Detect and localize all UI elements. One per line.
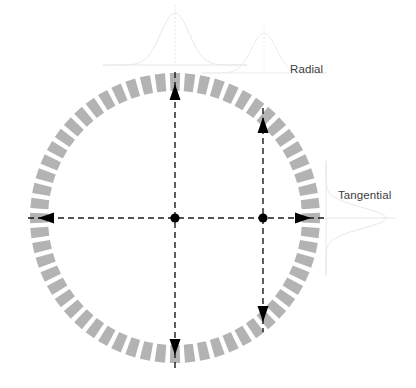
tangential-axis-label: Tangential bbox=[338, 189, 391, 201]
ring-segment bbox=[301, 198, 320, 210]
ring-segment bbox=[294, 253, 314, 268]
ring-segment bbox=[283, 278, 303, 295]
ring-segment bbox=[98, 90, 115, 110]
ring-segment bbox=[32, 183, 52, 196]
ring-segment bbox=[111, 332, 127, 352]
ring-segment bbox=[30, 227, 49, 239]
ring-segment bbox=[41, 265, 61, 281]
center-point bbox=[170, 213, 179, 222]
radial-axis-label: Radial bbox=[290, 63, 323, 75]
ring-segment bbox=[301, 227, 320, 239]
ring-segment bbox=[235, 90, 252, 110]
ring-segment bbox=[210, 337, 225, 357]
radial-tangential-ring-diagram: Radial Tangential bbox=[0, 0, 416, 388]
ring-segment bbox=[155, 73, 167, 92]
ring-segment bbox=[47, 141, 67, 158]
ring-segment bbox=[210, 79, 225, 99]
ring-segment bbox=[36, 253, 56, 268]
ring-segment bbox=[298, 240, 318, 253]
ring-segment bbox=[289, 154, 309, 170]
ring-segment bbox=[294, 168, 314, 183]
ring-segment bbox=[111, 84, 127, 104]
ring-segment bbox=[155, 344, 167, 363]
ring-segment bbox=[140, 341, 153, 361]
ring-segment bbox=[30, 198, 49, 210]
ring-segment bbox=[283, 141, 303, 158]
ring-segment bbox=[197, 75, 210, 95]
ring-segment bbox=[32, 240, 52, 253]
ring-segment bbox=[184, 344, 196, 363]
ring-segment bbox=[125, 79, 140, 99]
ring-segment bbox=[98, 326, 115, 346]
ring-segment bbox=[222, 332, 238, 352]
ring-segment bbox=[197, 341, 210, 361]
distribution-curve-group bbox=[103, 5, 396, 275]
ring-segment bbox=[298, 183, 318, 196]
ring-segment bbox=[184, 73, 196, 92]
ring-segment bbox=[36, 168, 56, 183]
ring-segment bbox=[41, 154, 61, 170]
ring-segment bbox=[140, 75, 153, 95]
ring-segment bbox=[289, 265, 309, 281]
ring-segment bbox=[222, 84, 238, 104]
ring-segment bbox=[235, 326, 252, 346]
ring-segment bbox=[125, 337, 140, 357]
ring-segment bbox=[47, 278, 67, 295]
offset-point bbox=[258, 213, 267, 222]
